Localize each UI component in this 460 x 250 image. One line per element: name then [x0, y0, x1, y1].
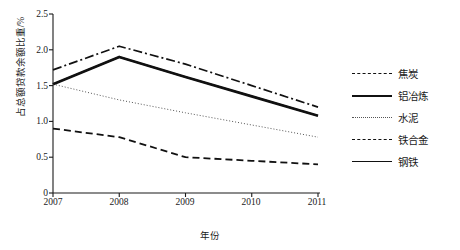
- legend-item-2[interactable]: 水泥: [352, 106, 458, 128]
- x-tick-label-2: 2009: [162, 197, 208, 208]
- legend-item-4[interactable]: 钢铁: [352, 150, 458, 172]
- x-tick-label-3: 2010: [228, 197, 274, 208]
- series-line-1: [53, 57, 318, 116]
- legend-label-2: 水泥: [398, 110, 418, 125]
- x-tick-label-4: 2011: [294, 197, 340, 208]
- legend-swatch-cement: [352, 111, 392, 123]
- x-tick-label-0: 2007: [30, 197, 76, 208]
- legend-item-1[interactable]: 铝冶炼: [352, 84, 458, 106]
- y-tick-label-1: 0.5: [22, 152, 48, 162]
- line-chart: 占总额贷款余额比重/% 年份 2.5 2.0 1.5 1.0 0.5 0 200…: [0, 0, 460, 250]
- y-tick-label-3: 1.5: [22, 81, 48, 91]
- legend-label-4: 钢铁: [398, 154, 418, 169]
- legend: 焦炭 铝冶炼 水泥 铁合金 钢铁: [352, 62, 458, 172]
- y-tick-label-2: 1.0: [22, 116, 48, 126]
- legend-label-3: 铁合金: [398, 132, 428, 147]
- y-tick-marks: [49, 14, 53, 193]
- x-tick-label-1: 2008: [96, 197, 142, 208]
- legend-item-0[interactable]: 焦炭: [352, 62, 458, 84]
- series-line-2: [53, 84, 318, 137]
- legend-swatch-aluminum: [352, 89, 392, 101]
- x-axis-label: 年份: [150, 228, 270, 242]
- series-line-4: [53, 57, 318, 116]
- legend-swatch-ferroalloy: [352, 133, 392, 145]
- legend-swatch-steel: [352, 155, 392, 167]
- y-tick-label-4: 2.0: [22, 45, 48, 55]
- legend-item-3[interactable]: 铁合金: [352, 128, 458, 150]
- legend-label-1: 铝冶炼: [398, 88, 428, 103]
- series-line-3: [53, 129, 318, 165]
- legend-label-0: 焦炭: [398, 66, 418, 81]
- data-series-group: [53, 46, 318, 164]
- legend-swatch-coke: [352, 67, 392, 79]
- y-tick-label-5: 2.5: [22, 9, 48, 19]
